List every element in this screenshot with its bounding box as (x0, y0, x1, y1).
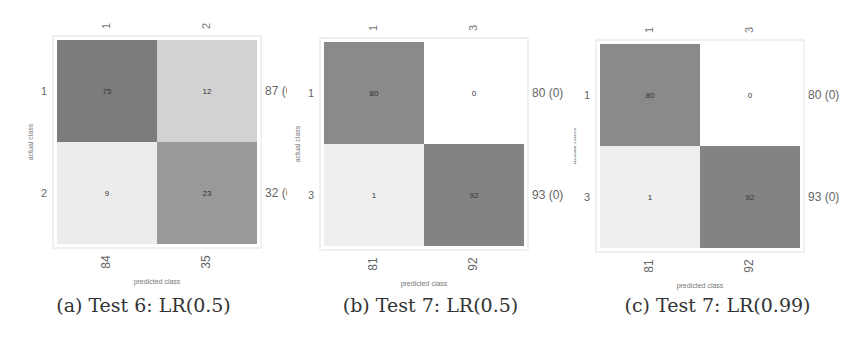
cell-value: 12 (203, 87, 212, 96)
cell-value: 9 (105, 189, 110, 198)
cell-value: 92 (470, 191, 479, 200)
cell-value: 80 (646, 91, 655, 100)
column-label: 2 (200, 23, 212, 29)
row-label: 1 (308, 87, 314, 99)
row-total: 80 (0) (532, 86, 563, 100)
cell-value: 1 (648, 193, 653, 202)
y-axis-label: actual class (27, 123, 34, 160)
column-total: 92 (466, 257, 480, 271)
caption-a: (a) Test 6: LR(0.5) (0, 294, 287, 316)
confusion-matrix-panel-b: 800192131380 (0)93 (0)8192predicted clas… (287, 0, 574, 344)
x-axis-label: predicted class (134, 278, 181, 286)
cell-value: 92 (746, 193, 755, 202)
caption-c: (c) Test 7: LR(0.99) (574, 294, 861, 316)
row-total: 32 (0) (265, 186, 287, 200)
x-axis-label: predicted class (677, 282, 724, 290)
row-label: 3 (308, 189, 314, 201)
cell-value: 0 (472, 89, 477, 98)
confusion-matrix-b: 800192131380 (0)93 (0)8192predicted clas… (287, 0, 574, 290)
column-label: 3 (743, 27, 755, 33)
confusion-matrix-panel-a: 7512923121287 (0)32 (0)8435predicted cla… (0, 0, 287, 344)
column-total: 81 (366, 257, 380, 271)
row-label: 2 (41, 187, 47, 199)
cell-value: 23 (203, 189, 212, 198)
row-label: 1 (41, 85, 47, 97)
x-axis-label: predicted class (401, 280, 448, 288)
row-total: 93 (0) (808, 190, 839, 204)
column-total: 92 (742, 259, 756, 273)
row-total: 93 (0) (532, 188, 563, 202)
column-total: 84 (99, 255, 113, 269)
confusion-matrix-c: 800192131380 (0)93 (0)8192predicted clas… (574, 0, 861, 290)
column-label: 1 (367, 25, 379, 31)
column-label: 3 (467, 25, 479, 31)
row-total: 80 (0) (808, 88, 839, 102)
column-total: 81 (642, 259, 656, 273)
column-total: 35 (199, 255, 213, 269)
cell-value: 80 (370, 89, 379, 98)
cell-value: 1 (372, 191, 377, 200)
cell-value: 75 (103, 87, 112, 96)
cell-value: 0 (748, 91, 753, 100)
column-label: 1 (100, 23, 112, 29)
confusion-matrix-panel-c: 800192131380 (0)93 (0)8192predicted clas… (574, 0, 861, 344)
confusion-matrix-a: 7512923121287 (0)32 (0)8435predicted cla… (0, 0, 287, 290)
column-label: 1 (643, 27, 655, 33)
y-axis-label: actual class (294, 125, 301, 162)
y-axis-label: actual class (574, 127, 577, 164)
row-label: 3 (584, 191, 590, 203)
row-label: 1 (584, 89, 590, 101)
row-total: 87 (0) (265, 84, 287, 98)
caption-b: (b) Test 7: LR(0.5) (287, 294, 574, 316)
